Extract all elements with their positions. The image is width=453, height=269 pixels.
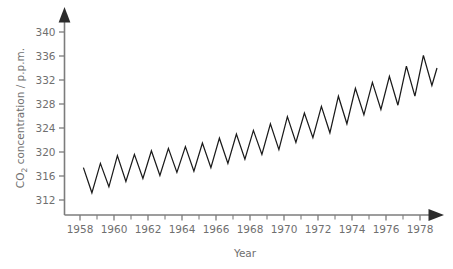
x-tick-label-1962: 1962 [135,223,162,235]
x-tick-label-1974: 1974 [339,223,366,235]
y-tick-label-324: 324 [35,122,55,134]
y-tick-label-320: 320 [35,146,55,158]
x-tick-labels: 1958196019621964196619681970197219741976… [67,223,434,235]
x-tick-marks [80,215,420,221]
x-tick-label-1958: 1958 [67,223,94,235]
x-tick-label-1968: 1968 [237,223,264,235]
chart-canvas: 312316320324328332336340 195819601962196… [0,0,453,269]
x-tick-label-1966: 1966 [203,223,230,235]
x-tick-label-1960: 1960 [101,223,128,235]
y-tick-marks [59,32,65,200]
y-axis-title-prefix: CO [14,173,26,189]
y-tick-label-332: 332 [35,74,55,86]
y-axis-arrow-icon [59,7,71,23]
x-tick-label-1978: 1978 [407,223,434,235]
y-axis-group [59,7,71,215]
y-tick-label-336: 336 [35,50,55,62]
x-tick-label-1970: 1970 [271,223,298,235]
y-tick-label-328: 328 [35,98,55,110]
y-tick-labels: 312316320324328332336340 [35,26,55,206]
y-tick-label-340: 340 [35,26,55,38]
x-tick-label-1972: 1972 [305,223,332,235]
co2-data-curve [83,55,437,192]
x-axis-arrow-icon [429,209,445,221]
x-tick-label-1976: 1976 [373,223,400,235]
y-axis-title-suffix: concentration / p.p.m. [14,48,26,168]
y-tick-label-316: 316 [35,170,55,182]
x-tick-label-1964: 1964 [169,223,196,235]
y-tick-label-312: 312 [35,194,55,206]
x-axis-group [65,209,445,221]
y-axis-title: CO2 concentration / p.p.m. [14,48,29,188]
x-axis-title: Year [233,247,257,259]
co2-concentration-chart: 312316320324328332336340 195819601962196… [0,0,453,269]
